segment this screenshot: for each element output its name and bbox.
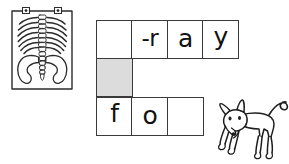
grid-cell-letter: -r: [142, 27, 159, 50]
grid-row-1: -r a y: [96, 20, 238, 59]
grid-cell-letter: a: [178, 26, 193, 51]
grid-cell-r1c1[interactable]: [96, 20, 133, 59]
grid-cell-r2c1-shaded[interactable]: [96, 58, 133, 97]
grid-cell-r1c4[interactable]: y: [202, 20, 239, 59]
grid-cell-r1c2[interactable]: -r: [131, 20, 168, 59]
x-ray-image: [9, 5, 75, 93]
grid-cell-r3c2[interactable]: o: [131, 97, 168, 136]
grid-cell-letter: f: [110, 101, 118, 126]
grid-cell-r1c3[interactable]: a: [167, 20, 204, 59]
fox-image: [206, 96, 289, 164]
grid-cell-r3c3[interactable]: [167, 97, 204, 136]
grid-cell-letter: y: [214, 24, 228, 49]
grid-row-2: [96, 58, 131, 97]
grid-cell-r3c1[interactable]: f: [96, 97, 133, 136]
grid-cell-letter: o: [143, 103, 158, 128]
grid-row-3: f o: [96, 97, 202, 136]
